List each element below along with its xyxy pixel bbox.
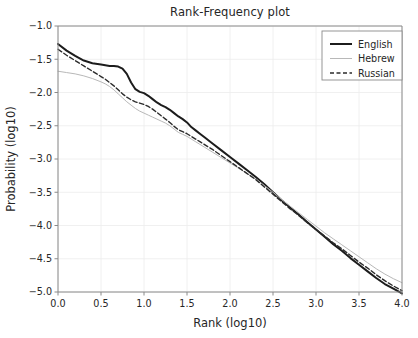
x-tick-label: 1.5 — [179, 298, 194, 309]
y-tick-label: −2.5 — [29, 120, 52, 131]
x-tick-label: 3.0 — [308, 298, 323, 309]
rank-frequency-plot: 0.00.51.01.52.02.53.03.54.0 −1.0−1.5−2.0… — [0, 0, 418, 338]
x-tick-label: 2.5 — [265, 298, 280, 309]
y-axis-ticks: −1.0−1.5−2.0−2.5−3.0−3.5−4.0−4.5−5.0 — [29, 20, 58, 297]
y-tick-label: −2.0 — [29, 87, 52, 98]
x-axis-title: Rank (log10) — [193, 316, 267, 330]
y-tick-label: −3.0 — [29, 153, 52, 164]
y-tick-label: −1.5 — [29, 54, 52, 65]
x-tick-label: 4.0 — [394, 298, 409, 309]
x-tick-label: 3.5 — [351, 298, 366, 309]
chart-figure: Rank-Frequency plot 0.00.51.01.52.02.53.… — [0, 0, 418, 338]
legend[interactable]: EnglishHebrewRussian — [322, 31, 402, 80]
legend-items: EnglishHebrewRussian — [330, 39, 395, 79]
y-tick-label: −4.0 — [29, 220, 52, 231]
x-axis-ticks: 0.00.51.01.52.02.53.03.54.0 — [50, 292, 409, 309]
x-tick-label: 0.5 — [93, 298, 108, 309]
y-tick-label: −4.5 — [29, 253, 52, 264]
x-tick-label: 2.0 — [222, 298, 237, 309]
y-tick-label: −1.0 — [29, 20, 52, 31]
legend-label-hebrew: Hebrew — [358, 53, 395, 64]
x-tick-label: 1.0 — [136, 298, 151, 309]
legend-label-english: English — [358, 39, 393, 50]
y-tick-label: −3.5 — [29, 187, 52, 198]
x-tick-label: 0.0 — [50, 298, 65, 309]
y-axis-title: Probability (log10) — [4, 106, 18, 212]
legend-label-russian: Russian — [358, 68, 395, 79]
y-tick-label: −5.0 — [29, 286, 52, 297]
